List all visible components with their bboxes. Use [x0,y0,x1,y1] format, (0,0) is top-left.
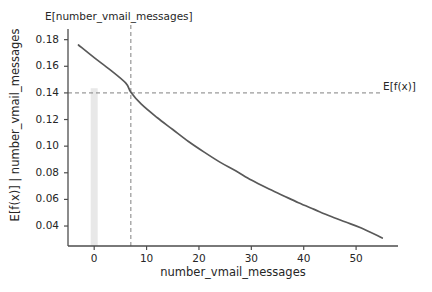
x-tick-label: 10 [132,252,162,264]
data-curve [78,45,382,238]
plot-area [0,0,432,292]
x-tick-label: 0 [79,252,109,264]
rug-bar [91,88,98,246]
y-tick-label: 0.18 [23,33,59,45]
x-tick-label: 20 [184,252,214,264]
x-tick-label: 40 [289,252,319,264]
y-tick-label: 0.08 [23,166,59,178]
axis-ticks [64,40,356,250]
y-tick-label: 0.04 [23,219,59,231]
annotation-lines [68,25,380,246]
y-tick-label: 0.10 [23,139,59,151]
x-tick-label: 50 [341,252,371,264]
partial-dependence-line [78,45,382,238]
histogram-bars [91,88,98,246]
chart-figure: E[f(x)] | number_vmail_messages number_v… [0,0,432,292]
x-tick-label: 30 [236,252,266,264]
y-tick-label: 0.06 [23,192,59,204]
y-tick-label: 0.16 [23,59,59,71]
y-tick-label: 0.14 [23,86,59,98]
axis-spines [68,29,398,246]
y-tick-label: 0.12 [23,113,59,125]
